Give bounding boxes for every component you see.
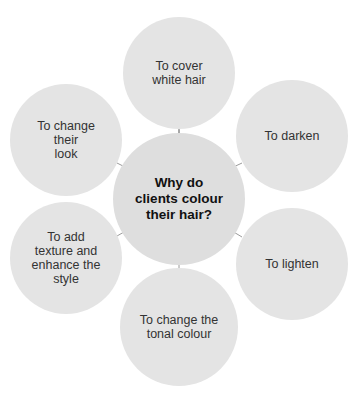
node-bottom: To change the tonal colour bbox=[120, 268, 238, 386]
node-bottom-line-2: tonal colour bbox=[140, 327, 219, 341]
node-upper-left-line-2: their bbox=[37, 133, 95, 147]
node-lower-left-line-3: enhance the bbox=[32, 258, 101, 272]
node-lower-left-line-2: texture and bbox=[32, 244, 101, 258]
center-line-2: clients colour bbox=[135, 191, 223, 207]
node-center: Why do clients colour their hair? bbox=[113, 133, 245, 265]
node-lower-left-line-4: style bbox=[32, 272, 101, 286]
center-line-1: Why do bbox=[135, 175, 223, 191]
node-lower-right: To lighten bbox=[236, 208, 348, 320]
node-upper-right: To darken bbox=[236, 80, 348, 192]
node-lower-left: To add texture and enhance the style bbox=[10, 202, 122, 314]
hair-colour-reasons-diagram: To cover white hair To change their look… bbox=[0, 0, 358, 395]
node-top-line-2: white hair bbox=[152, 73, 206, 87]
node-upper-left: To change their look bbox=[10, 84, 122, 196]
node-upper-left-line-1: To change bbox=[37, 119, 95, 133]
node-top-line-1: To cover bbox=[152, 59, 206, 73]
center-line-3: their hair? bbox=[135, 207, 223, 223]
node-upper-left-line-3: look bbox=[37, 147, 95, 161]
node-lower-right-line-1: To lighten bbox=[265, 257, 319, 271]
node-top: To cover white hair bbox=[123, 17, 235, 129]
node-upper-right-line-1: To darken bbox=[265, 129, 320, 143]
node-bottom-line-1: To change the bbox=[140, 313, 219, 327]
node-lower-left-line-1: To add bbox=[32, 230, 101, 244]
